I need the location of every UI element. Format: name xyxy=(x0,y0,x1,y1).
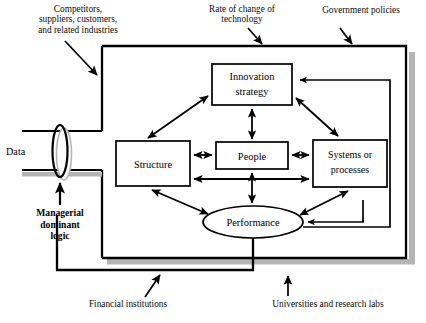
node-structure[interactable]: Structure xyxy=(116,141,190,186)
link-innovation-systems xyxy=(296,98,338,136)
label-rate-of-change: Rate of change of technology xyxy=(183,4,301,25)
innovation-system-diagram: Innovation strategy Structure People Sys… xyxy=(0,0,426,323)
node-performance-label: Performance xyxy=(226,217,279,228)
diagram-canvas: Innovation strategy Structure People Sys… xyxy=(0,0,426,323)
link-systems-performance xyxy=(300,191,348,215)
pointer-competitors xyxy=(65,41,97,75)
node-people-label: People xyxy=(238,151,267,162)
node-innovation-strategy-line2: strategy xyxy=(236,86,270,97)
link-structure-performance xyxy=(152,190,208,214)
pointer-government-policies xyxy=(340,28,352,44)
node-systems-processes[interactable]: Systems or processes xyxy=(313,140,387,187)
label-universities: Universities and research labs xyxy=(236,299,420,309)
node-innovation-strategy-line1: Innovation xyxy=(229,71,275,82)
node-performance[interactable]: Performance xyxy=(203,206,303,238)
node-innovation-strategy[interactable]: Innovation strategy xyxy=(212,64,292,105)
node-people[interactable]: People xyxy=(216,142,288,169)
external-pointer-arrows xyxy=(65,28,352,297)
pointer-financial-institutions xyxy=(145,275,160,297)
label-government-policies: Government policies xyxy=(305,5,417,15)
label-financial-institutions: Financial institutions xyxy=(60,299,196,309)
node-systems-processes-line2: processes xyxy=(331,164,369,175)
node-systems-processes-line1: Systems or xyxy=(328,149,373,160)
label-competitors: Competitors, suppliers, customers, and r… xyxy=(8,4,148,35)
link-structure-innovation xyxy=(148,96,208,138)
label-managerial-dominant-logic: Managerial dominant logic xyxy=(10,207,110,242)
label-data: Data xyxy=(6,146,25,157)
feedback-loop-performance-to-systems xyxy=(308,200,363,222)
managerial-dominant-logic-valve xyxy=(53,125,72,180)
node-structure-label: Structure xyxy=(134,159,172,170)
pointer-rate-of-change xyxy=(248,28,262,44)
